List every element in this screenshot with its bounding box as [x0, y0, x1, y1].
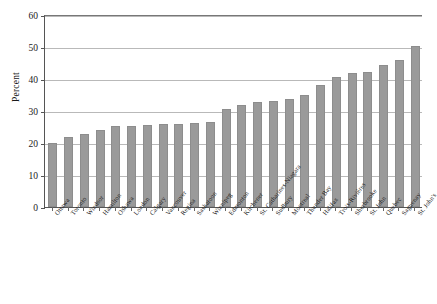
bar: [285, 99, 294, 207]
bar: [379, 65, 388, 207]
y-axis-tick-label: 30: [8, 112, 38, 113]
x-axis-tick: [320, 207, 321, 211]
y-axis-tick-label: 60: [8, 16, 38, 17]
x-axis-tick: [99, 207, 100, 211]
y-axis-tick: [41, 16, 45, 17]
y-axis-tick: [41, 176, 45, 177]
y-axis-tick-label: 10: [8, 176, 38, 177]
x-axis-tick: [398, 207, 399, 211]
x-axis-tick: [351, 207, 352, 211]
gridline: [45, 16, 422, 17]
y-axis-tick: [41, 48, 45, 49]
x-axis-tick: [68, 207, 69, 211]
x-axis-tick: [131, 207, 132, 211]
x-axis-tick: [288, 207, 289, 211]
plot-area: 0102030405060: [44, 15, 422, 207]
x-axis-tick: [209, 207, 210, 211]
y-axis-tick: [41, 112, 45, 113]
x-axis-tick: [335, 207, 336, 211]
x-axis-tick: [146, 207, 147, 211]
x-axis-tick: [194, 207, 195, 211]
bar: [48, 143, 57, 207]
bar: [395, 60, 404, 207]
gridline: [45, 48, 422, 49]
y-axis-tick-label: 50: [8, 48, 38, 49]
bar: [332, 77, 341, 207]
bar: [190, 123, 199, 207]
bar: [411, 46, 420, 207]
x-axis-tick: [83, 207, 84, 211]
x-axis-tick: [162, 207, 163, 211]
y-axis-tick: [41, 80, 45, 81]
y-axis-tick: [41, 144, 45, 145]
x-axis-tick: [257, 207, 258, 211]
x-axis-tick: [225, 207, 226, 211]
x-axis-tick: [272, 207, 273, 211]
y-axis-tick: [41, 208, 45, 209]
y-axis-title: Percent: [11, 47, 21, 127]
x-axis-tick: [414, 207, 415, 211]
y-axis-tick-label: 0: [8, 208, 38, 209]
x-axis-tick: [383, 207, 384, 211]
y-axis-tick-label: 20: [8, 144, 38, 145]
y-axis-tick-label: 40: [8, 80, 38, 81]
bar: [300, 95, 309, 207]
